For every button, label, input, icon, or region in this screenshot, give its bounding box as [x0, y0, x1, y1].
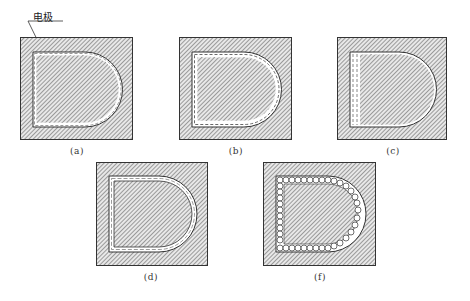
- panel-b: [179, 37, 293, 141]
- caption-b: (b): [216, 146, 256, 156]
- panel-a: [20, 37, 134, 141]
- caption-a: (a): [57, 146, 97, 156]
- panel-c: [337, 37, 448, 141]
- caption-d: (d): [131, 272, 171, 282]
- caption-f: (f): [300, 272, 340, 282]
- panel-f: [263, 162, 377, 267]
- caption-c: (c): [373, 146, 413, 156]
- panel-d: [96, 162, 209, 267]
